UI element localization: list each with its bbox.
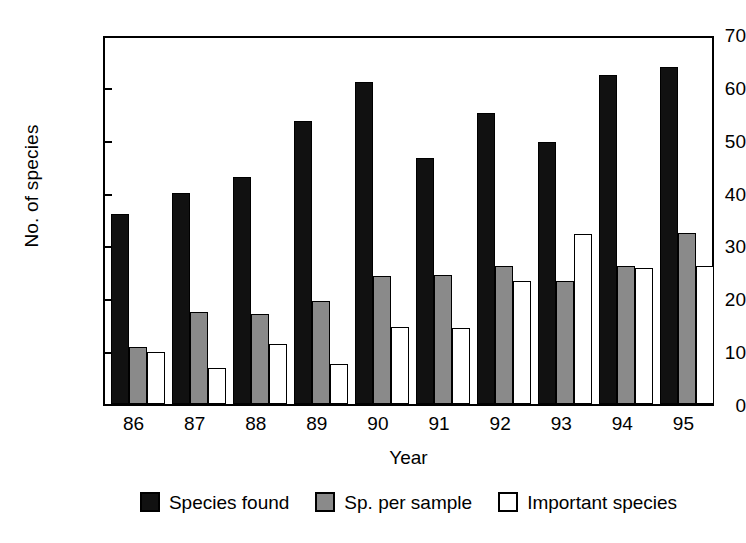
legend-item: Important species [498,492,677,512]
bar [190,312,208,405]
y-axis-tick [103,352,112,354]
bar [129,347,147,404]
y-axis-tick-label: 10 [660,343,746,362]
legend-item: Sp. per sample [315,492,472,512]
bar [617,266,635,404]
x-axis-tick-label: 91 [409,414,469,434]
x-axis-tick-label: 92 [470,414,530,434]
y-axis-tick-label: 50 [660,132,746,151]
x-axis-tick-label: 87 [165,414,225,434]
legend-label: Sp. per sample [344,493,472,512]
legend-swatch-icon [498,492,518,512]
plot-frame [103,36,714,406]
bar [556,281,574,404]
y-axis-tick-label: 70 [660,26,746,45]
bar [538,142,556,404]
y-axis-tick [103,246,112,248]
bar [635,268,653,404]
bar [172,193,190,404]
x-axis-tick-label: 89 [287,414,347,434]
bar-group [294,38,348,404]
x-axis-tick-label: 90 [348,414,408,434]
x-axis-tick-label: 86 [104,414,164,434]
y-axis-tick [103,88,112,90]
bar [251,314,269,404]
y-axis-tick [103,299,112,301]
y-axis-tick-label: 60 [660,79,746,98]
y-axis-tick-label: 40 [660,185,746,204]
legend-swatch-icon [140,492,160,512]
bar [294,121,312,404]
bar [208,368,226,404]
x-axis-tick-label: 95 [653,414,713,434]
bar-group [538,38,592,404]
bar [452,328,470,404]
bar-group [172,38,226,404]
bar [434,275,452,405]
bar [696,266,714,404]
x-axis-tick-label: 93 [531,414,591,434]
bar [269,344,287,404]
bar [233,177,251,404]
bar [574,234,592,404]
bar [111,214,129,404]
plot-area [105,38,712,404]
bar [373,276,391,404]
bar [416,158,434,404]
legend-label: Important species [527,493,677,512]
y-axis-title: No. of species [21,36,43,336]
bar-group [477,38,531,404]
bar-group [355,38,409,404]
y-axis-tick-label: 30 [660,237,746,256]
bar [678,233,696,404]
bar [391,327,409,404]
legend-swatch-icon [315,492,335,512]
bar [477,113,495,404]
y-axis-tick-label: 20 [660,290,746,309]
bar-group [111,38,165,404]
bar-group [416,38,470,404]
bar-group [599,38,653,404]
y-axis-tick [103,141,112,143]
x-axis-title: Year [103,447,714,469]
x-axis-tick-label: 88 [226,414,286,434]
bar-chart: No. of species 010203040506070 868788899… [0,0,746,543]
bar [495,266,513,404]
chart-legend: Species foundSp. per sampleImportant spe… [103,492,714,512]
bar [147,352,165,404]
legend-item: Species found [140,492,289,512]
bar [312,301,330,404]
x-axis-tick-label: 94 [592,414,652,434]
bar [513,281,531,404]
bar-group [233,38,287,404]
bar [599,75,617,404]
legend-label: Species found [169,493,289,512]
bar [355,82,373,404]
y-axis-tick [103,194,112,196]
bar [330,364,348,404]
